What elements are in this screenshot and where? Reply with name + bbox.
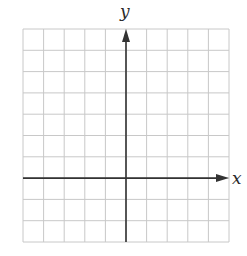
x-axis-arrow-icon xyxy=(216,174,229,182)
coordinate-grid xyxy=(0,0,247,256)
y-axis-label: y xyxy=(120,3,130,20)
x-axis-label: x xyxy=(232,170,242,187)
y-axis-arrow-icon xyxy=(122,29,130,42)
